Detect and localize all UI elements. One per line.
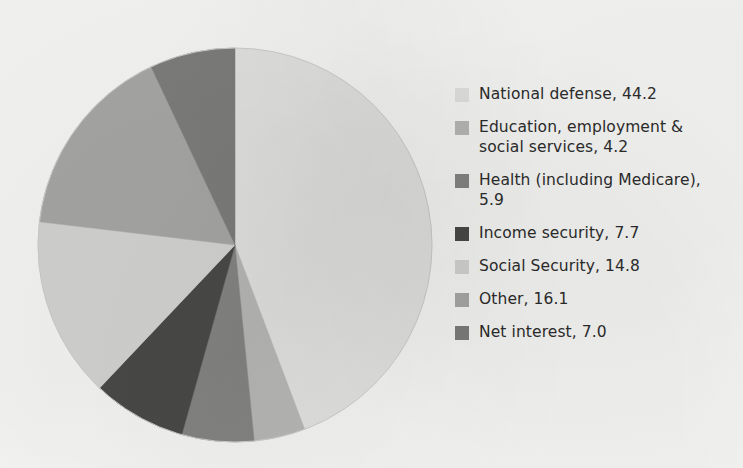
legend-swatch-other [455, 293, 469, 307]
legend-item[interactable]: National defense, 44.2 [455, 84, 743, 104]
legend-item[interactable]: Social Security, 14.8 [455, 256, 743, 276]
legend-item-label: Health (including Medicare), 5.9 [479, 170, 701, 210]
legend-item[interactable]: Education, employment & social services,… [455, 117, 743, 157]
legend-swatch-net-interest [455, 326, 469, 340]
legend-swatch-education [455, 121, 469, 135]
legend-item[interactable]: Health (including Medicare), 5.9 [455, 170, 743, 210]
pie-chart [36, 46, 434, 444]
chart-legend: National defense, 44.2Education, employm… [455, 84, 743, 355]
legend-item-label: Income security, 7.7 [479, 223, 639, 243]
pie-slices [38, 48, 432, 442]
legend-item-label: Education, employment & social services,… [479, 117, 683, 157]
legend-item[interactable]: Net interest, 7.0 [455, 322, 743, 342]
legend-item[interactable]: Other, 16.1 [455, 289, 743, 309]
legend-item-label: Social Security, 14.8 [479, 256, 640, 276]
legend-item-label: National defense, 44.2 [479, 84, 657, 104]
legend-item[interactable]: Income security, 7.7 [455, 223, 743, 243]
legend-swatch-social-security [455, 260, 469, 274]
legend-swatch-national-defense [455, 88, 469, 102]
pie-chart-area [0, 0, 455, 468]
legend-swatch-income-security [455, 227, 469, 241]
legend-item-label: Net interest, 7.0 [479, 322, 607, 342]
legend-item-label: Other, 16.1 [479, 289, 568, 309]
legend-swatch-health [455, 174, 469, 188]
